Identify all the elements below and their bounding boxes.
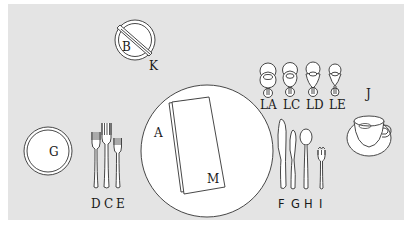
label-glass-le: LE — [329, 99, 346, 111]
label-glass-la: LA — [260, 99, 277, 111]
fork-d-icon — [92, 132, 100, 188]
dinner-knife-icon — [278, 119, 286, 189]
fork-e-icon — [114, 138, 122, 188]
label-bread-plate: B — [122, 41, 131, 53]
label-knife-g: G — [291, 198, 300, 210]
spoon-icon — [300, 129, 312, 189]
label-spoon-h: H — [304, 198, 313, 210]
label-fork-e: E — [116, 198, 125, 210]
label-butter-knife: K — [149, 60, 158, 72]
label-fork-d: D — [91, 198, 101, 210]
label-dinner-plate: A — [154, 127, 163, 139]
white-wine-glass-icon — [306, 62, 320, 97]
red-wine-glass-icon — [283, 63, 298, 97]
label-fork-c: C — [104, 198, 113, 210]
cup-and-saucer-icon — [347, 116, 391, 156]
label-side-plate: G — [49, 146, 59, 158]
oyster-fork-icon — [318, 147, 325, 189]
fork-c-icon — [102, 123, 111, 188]
label-knife-f: F — [278, 198, 285, 210]
label-glass-ld: LD — [306, 99, 324, 111]
label-napkin: M — [207, 173, 219, 185]
water-goblet-icon — [260, 63, 276, 98]
label-oyster-fork-i: I — [319, 198, 322, 210]
label-glass-lc: LC — [283, 99, 300, 111]
fish-knife-icon — [290, 130, 296, 189]
side-plate-icon — [24, 127, 72, 175]
sherry-glass-icon — [329, 64, 341, 96]
place-setting-illustration — [0, 0, 416, 227]
label-cup-saucer: J — [366, 88, 371, 100]
bread-plate-icon — [115, 20, 155, 60]
